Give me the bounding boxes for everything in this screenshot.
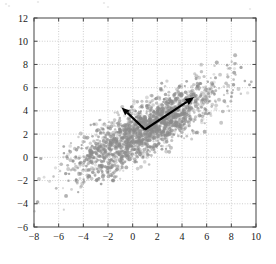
x-tick-label: −4 [78, 231, 89, 242]
scatter-plot-figure: −8−6−4−20246810−6−4−2024681012 [0, 0, 276, 264]
x-tick-label: 6 [204, 231, 209, 242]
y-tick-label: 0 [23, 152, 28, 163]
y-tick-label: 6 [23, 82, 28, 93]
scatter-points [33, 53, 252, 212]
x-tick-label: −6 [53, 231, 64, 242]
y-tick-label: 8 [23, 59, 28, 70]
plot-canvas: −8−6−4−20246810−6−4−2024681012 [0, 0, 276, 264]
y-axis-tick-labels: −6−4−2024681012 [17, 13, 28, 233]
y-tick-label: −2 [17, 175, 28, 186]
y-tick-label: −6 [17, 222, 28, 233]
scan-artifacts [5, 1, 251, 10]
x-tick-label: 2 [155, 231, 160, 242]
y-tick-label: 2 [23, 129, 28, 140]
x-tick-label: 8 [229, 231, 234, 242]
y-tick-label: 12 [18, 13, 28, 24]
y-tick-label: 10 [18, 36, 28, 47]
x-tick-label: −8 [29, 231, 40, 242]
x-axis-tick-labels: −8−6−4−20246810 [29, 231, 261, 242]
y-tick-label: 4 [23, 105, 28, 116]
x-tick-label: 4 [180, 231, 185, 242]
x-tick-label: −2 [103, 231, 114, 242]
y-tick-label: −4 [17, 198, 28, 209]
x-tick-label: 0 [130, 231, 135, 242]
x-tick-label: 10 [251, 231, 261, 242]
